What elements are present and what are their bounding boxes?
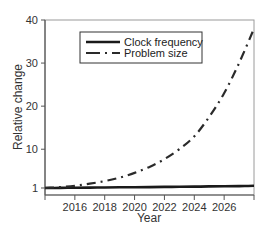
legend: Clock frequency Problem size <box>80 32 203 63</box>
x-axis-title: Year <box>137 211 161 225</box>
y-tick-label: 1 <box>32 182 38 194</box>
x-tick-label: 2016 <box>63 201 87 213</box>
y-tick-label: 40 <box>26 14 38 26</box>
y-ticks: 110203040 <box>26 14 45 194</box>
y-tick-label: 30 <box>26 57 38 69</box>
y-tick-label: 10 <box>26 143 38 155</box>
x-tick-label: 2018 <box>92 201 116 213</box>
legend-label-problem: Problem size <box>124 47 188 59</box>
y-tick-label: 20 <box>26 100 38 112</box>
y-axis-title: Relative change <box>11 64 25 150</box>
line-chart: 110203040 201620182020202220242026 Clock… <box>0 0 268 231</box>
x-tick-label: 2026 <box>212 201 236 213</box>
series-clock-frequency <box>45 186 254 188</box>
x-tick-label: 2024 <box>182 201 206 213</box>
